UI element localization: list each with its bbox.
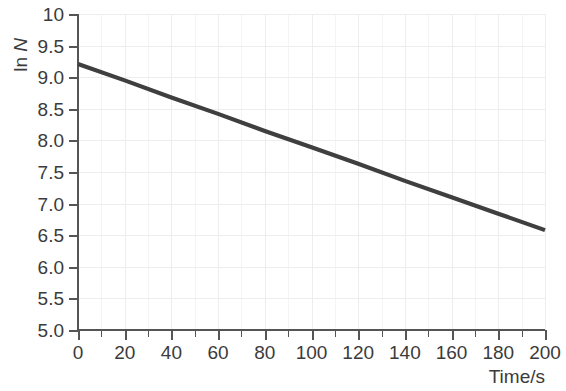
y-tick-label: 5.0 bbox=[38, 320, 64, 341]
y-tick-label: 9.0 bbox=[38, 67, 64, 88]
y-axis-tick-labels: 5.05.56.06.57.07.58.08.59.09.510 bbox=[38, 4, 64, 341]
y-tick-label: 7.5 bbox=[38, 162, 64, 183]
y-axis-ticks bbox=[69, 15, 78, 331]
y-tick-label: 8.0 bbox=[38, 130, 64, 151]
chart-container: 5.05.56.06.57.07.58.08.59.09.510 0204060… bbox=[0, 0, 566, 391]
x-tick-label: 0 bbox=[73, 342, 84, 363]
x-tick-label: 140 bbox=[389, 342, 421, 363]
decay-line-chart: 5.05.56.06.57.07.58.08.59.09.510 0204060… bbox=[0, 0, 566, 391]
x-tick-label: 20 bbox=[114, 342, 135, 363]
x-axis-tick-labels: 020406080100120140160180200 bbox=[73, 342, 561, 363]
svg-text:ln N: ln N bbox=[10, 38, 31, 72]
y-axis-title-variable: N bbox=[10, 38, 31, 52]
y-axis-title: ln N bbox=[10, 38, 31, 72]
x-tick-label: 160 bbox=[436, 342, 468, 363]
x-tick-label: 120 bbox=[342, 342, 374, 363]
y-axis-title-prefix: ln bbox=[10, 52, 31, 72]
x-tick-label: 100 bbox=[296, 342, 328, 363]
y-tick-label: 5.5 bbox=[38, 288, 64, 309]
x-axis-title: Time/s bbox=[489, 366, 545, 387]
y-tick-label: 10 bbox=[43, 4, 64, 25]
y-tick-label: 6.5 bbox=[38, 225, 64, 246]
y-tick-label: 7.0 bbox=[38, 194, 64, 215]
x-tick-label: 60 bbox=[208, 342, 229, 363]
x-tick-label: 180 bbox=[482, 342, 514, 363]
x-tick-label: 40 bbox=[161, 342, 182, 363]
y-tick-label: 8.5 bbox=[38, 99, 64, 120]
y-tick-label: 6.0 bbox=[38, 257, 64, 278]
x-tick-label: 80 bbox=[254, 342, 275, 363]
x-tick-label: 200 bbox=[529, 342, 561, 363]
y-tick-label: 9.5 bbox=[38, 36, 64, 57]
x-axis-ticks bbox=[79, 330, 546, 340]
